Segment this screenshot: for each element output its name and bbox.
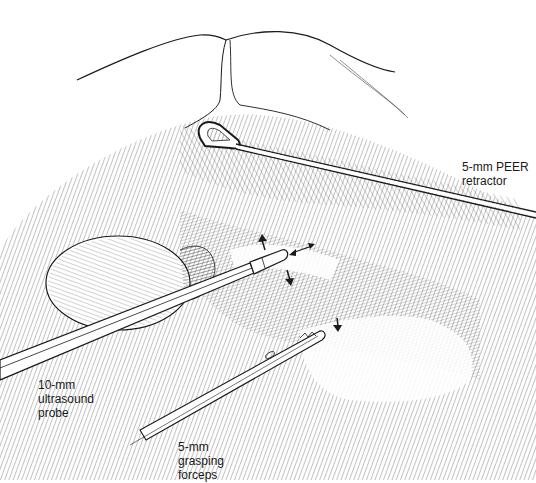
label-grasping-forceps: 5-mm grasping forceps [178,440,224,482]
label-ultrasound-probe: 10-mm ultrasound probe [38,378,94,420]
surgical-illustration: 5-mm PEER retractor 10-mm ultrasound pro… [0,0,536,483]
label-peer-retractor: 5-mm PEER retractor [462,160,529,188]
